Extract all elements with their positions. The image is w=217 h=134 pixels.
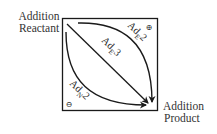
svg-text:AdE3: AdE3 bbox=[98, 35, 124, 61]
mechanism-diagram: AdE2 ⊕ AdE3 AdN2 ⊖ bbox=[0, 0, 217, 134]
positive-charge-icon: ⊕ bbox=[146, 23, 153, 32]
ade3-label: AdE3 bbox=[98, 35, 124, 61]
negative-charge-icon: ⊖ bbox=[66, 100, 73, 109]
